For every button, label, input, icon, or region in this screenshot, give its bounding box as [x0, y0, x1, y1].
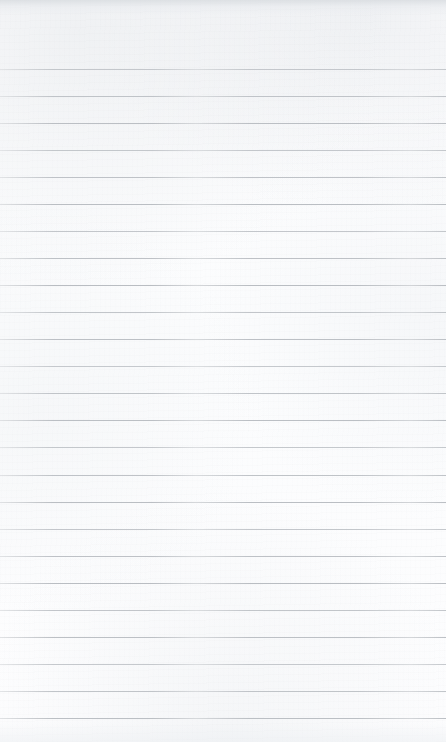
- writing-line-20[interactable]: [0, 584, 446, 610]
- writing-line-7[interactable]: [0, 232, 446, 258]
- writing-line-6[interactable]: [0, 205, 446, 231]
- writing-line-22[interactable]: [0, 638, 446, 664]
- writing-line-23[interactable]: [0, 665, 446, 691]
- scanned-page: [0, 0, 446, 742]
- writing-line-14[interactable]: [0, 421, 446, 447]
- writing-line-9[interactable]: [0, 286, 446, 312]
- writing-line-11[interactable]: [0, 340, 446, 366]
- writing-line-10[interactable]: [0, 313, 446, 339]
- writing-line-13[interactable]: [0, 394, 446, 420]
- writing-line-17[interactable]: [0, 503, 446, 529]
- writing-line-15[interactable]: [0, 448, 446, 475]
- writing-line-21[interactable]: [0, 611, 446, 637]
- writing-line-3[interactable]: [0, 124, 446, 150]
- writing-line-8[interactable]: [0, 259, 446, 285]
- writing-line-4[interactable]: [0, 151, 446, 177]
- writing-line-24[interactable]: [0, 692, 446, 718]
- writing-line-1[interactable]: [0, 70, 446, 96]
- writing-line-2[interactable]: [0, 97, 446, 123]
- writing-line-18[interactable]: [0, 530, 446, 556]
- top-margin: [0, 0, 446, 69]
- writing-line-5[interactable]: [0, 178, 446, 204]
- bottom-margin: [0, 719, 446, 742]
- writing-line-19[interactable]: [0, 557, 446, 583]
- writing-line-16[interactable]: [0, 476, 446, 502]
- writing-line-12[interactable]: [0, 367, 446, 393]
